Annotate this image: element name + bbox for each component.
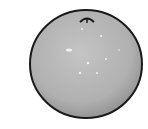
orange-illustration bbox=[0, 0, 148, 129]
orange-body bbox=[30, 10, 142, 118]
